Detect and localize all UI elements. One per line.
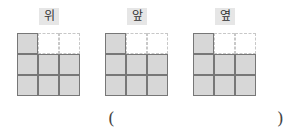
view-side: 옆	[193, 0, 259, 100]
filled-cell	[59, 54, 80, 75]
grid-side	[193, 33, 256, 96]
filled-cell	[38, 75, 59, 96]
filled-cell	[59, 75, 80, 96]
empty-cell	[38, 33, 59, 54]
view-front: 앞	[105, 0, 171, 100]
empty-cell	[235, 33, 256, 54]
filled-cell	[105, 33, 126, 54]
empty-cell	[147, 33, 168, 54]
grid-front	[105, 33, 168, 96]
filled-cell	[147, 54, 168, 75]
filled-cell	[105, 75, 126, 96]
filled-cell	[17, 33, 38, 54]
filled-cell	[126, 75, 147, 96]
empty-cell	[214, 33, 235, 54]
empty-cell	[59, 33, 80, 54]
filled-cell	[214, 54, 235, 75]
filled-cell	[17, 54, 38, 75]
view-label-top: 위	[39, 8, 59, 25]
filled-cell	[193, 54, 214, 75]
empty-cell	[126, 33, 147, 54]
answer-close-paren: )	[277, 108, 284, 128]
filled-cell	[235, 75, 256, 96]
filled-cell	[214, 75, 235, 96]
filled-cell	[126, 54, 147, 75]
filled-cell	[38, 54, 59, 75]
filled-cell	[105, 54, 126, 75]
answer-blank[interactable]	[120, 108, 275, 128]
view-top: 위	[17, 0, 83, 100]
filled-cell	[193, 75, 214, 96]
filled-cell	[235, 54, 256, 75]
view-label-side: 옆	[215, 8, 235, 25]
answer-open-paren: (	[108, 108, 115, 128]
filled-cell	[193, 33, 214, 54]
view-label-front: 앞	[127, 8, 147, 25]
filled-cell	[147, 75, 168, 96]
grid-top	[17, 33, 80, 96]
filled-cell	[17, 75, 38, 96]
